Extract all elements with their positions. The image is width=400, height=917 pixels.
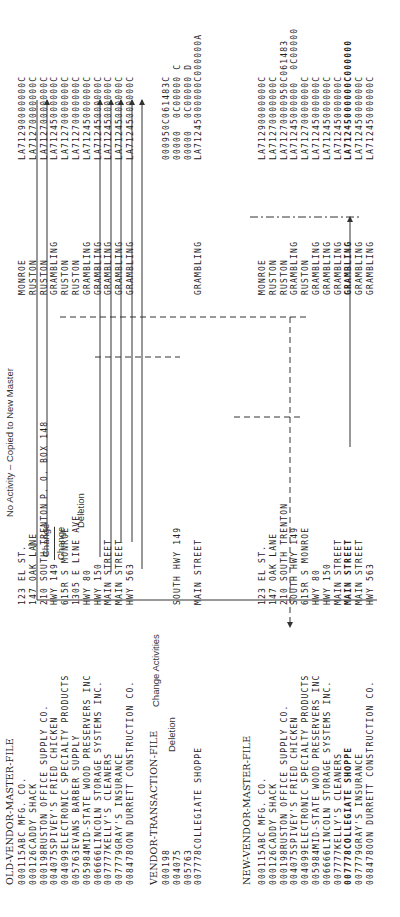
flow-arrows (0, 0, 400, 917)
rotated-document-page: OLD-VENDOR-MASTER-FILE 000115ABC MFG. CO… (0, 0, 400, 917)
